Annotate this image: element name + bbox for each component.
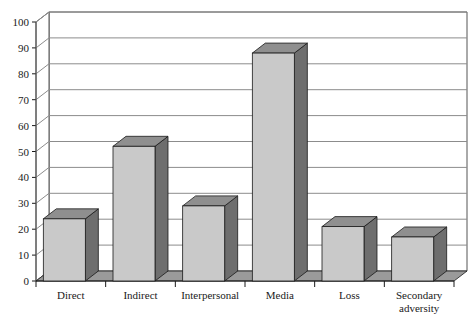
y-axis-tick-label: 60 xyxy=(18,120,30,132)
bar-front-face xyxy=(392,237,434,281)
x-axis-category-label: Indirect xyxy=(123,289,157,301)
bar-side-face xyxy=(364,217,377,281)
bar-side-face xyxy=(85,209,98,281)
y-axis-tick-label: 10 xyxy=(18,249,30,261)
bar-front-face xyxy=(113,146,155,281)
x-axis-category-label: Direct xyxy=(57,289,84,301)
y-axis-tick-label: 40 xyxy=(18,171,30,183)
bar-column xyxy=(392,227,447,281)
x-axis-category-label: Interpersonal xyxy=(181,289,239,301)
chart-canvas: 0102030405060708090100DirectIndirectInte… xyxy=(0,0,469,325)
bar-front-face xyxy=(252,53,294,281)
y-axis-tick-label: 70 xyxy=(18,94,30,106)
y-axis-tick-label: 100 xyxy=(13,16,30,28)
bar-column xyxy=(183,196,238,281)
bar-column xyxy=(43,209,98,281)
bar-front-face xyxy=(322,227,364,281)
x-axis-category-label: Secondary xyxy=(396,289,443,301)
y-axis-tick-label: 90 xyxy=(18,42,30,54)
bar-column xyxy=(322,217,377,281)
y-axis-tick-label: 30 xyxy=(18,197,30,209)
y-axis-tick-label: 0 xyxy=(24,275,30,287)
x-axis-category-label: Loss xyxy=(339,289,360,301)
x-axis-category-label: Media xyxy=(266,289,294,301)
x-axis-category-label-line2: adversity xyxy=(399,302,440,314)
bar-side-face xyxy=(294,43,307,281)
bar-column xyxy=(113,136,168,281)
bar-front-face xyxy=(183,206,225,281)
y-axis-tick-label: 80 xyxy=(18,68,30,80)
y-axis-tick-label: 20 xyxy=(18,223,30,235)
bar-chart-figure: 0102030405060708090100DirectIndirectInte… xyxy=(0,0,469,325)
y-axis-tick-label: 50 xyxy=(18,146,30,158)
bar-side-face xyxy=(155,136,168,281)
bar-front-face xyxy=(43,219,85,281)
bar-column xyxy=(252,43,307,281)
bar-side-face xyxy=(225,196,238,281)
